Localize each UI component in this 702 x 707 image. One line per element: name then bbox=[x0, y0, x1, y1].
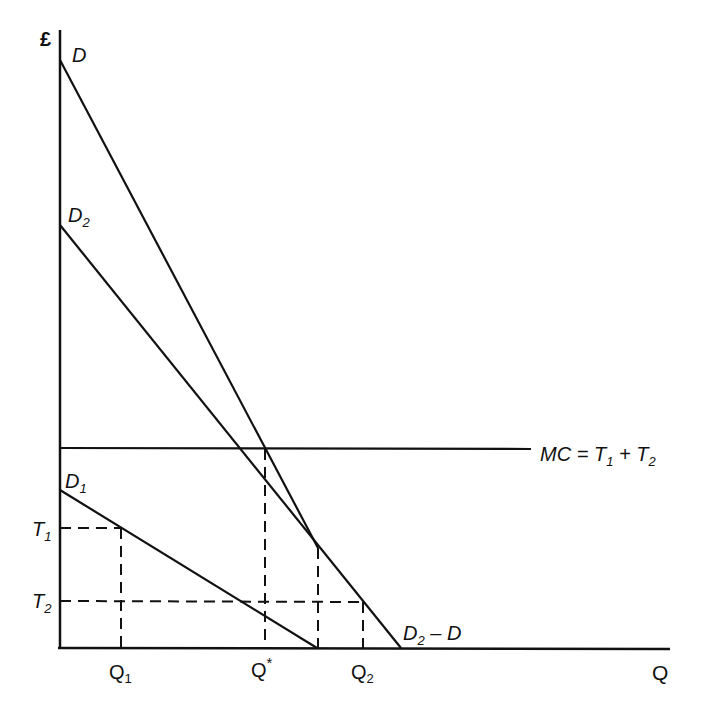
x-axis bbox=[58, 648, 670, 649]
x-axis-label: Q bbox=[652, 661, 668, 684]
curve-label-d1: D1 bbox=[65, 470, 87, 496]
curve-label-d2-minus-d: D2 – D bbox=[403, 622, 461, 648]
x-tick-q2: Q2 bbox=[351, 661, 374, 686]
x-tick-qstar: Q* bbox=[251, 654, 273, 681]
public-goods-diagram: £ Q D D2 D1 D2 – D MC = T1 + T2 T1 T2 Q1… bbox=[0, 0, 702, 707]
y-tick-t1: T1 bbox=[32, 518, 51, 544]
t2-dashed-guide bbox=[60, 601, 363, 602]
demand-curve-d2 bbox=[60, 225, 401, 648]
demand-curve-d bbox=[60, 60, 318, 548]
mc-line bbox=[60, 448, 531, 449]
curve-label-d: D bbox=[72, 44, 86, 66]
x-tick-q1: Q1 bbox=[109, 661, 132, 686]
demand-curve-d1 bbox=[60, 490, 317, 648]
y-axis-label: £ bbox=[40, 28, 51, 50]
y-tick-t2: T2 bbox=[32, 590, 52, 616]
mc-label: MC = T1 + T2 bbox=[540, 443, 656, 469]
curve-label-d2: D2 bbox=[68, 204, 90, 230]
